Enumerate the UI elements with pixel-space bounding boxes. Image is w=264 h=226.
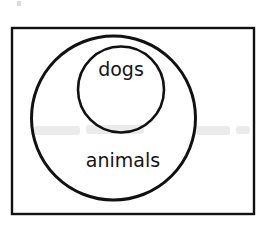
scan-ghost-left (34, 126, 80, 135)
universal-set-rectangle (12, 28, 254, 214)
venn-diagram-figure: dogs animals (0, 0, 264, 226)
set-label-dogs: dogs (98, 58, 144, 80)
scan-ghost-right (196, 126, 230, 135)
scan-speck-top (17, 1, 21, 6)
venn-diagram-canvas: dogs animals (0, 0, 264, 226)
set-label-animals: animals (86, 149, 160, 171)
scan-ghost-far (236, 126, 250, 134)
